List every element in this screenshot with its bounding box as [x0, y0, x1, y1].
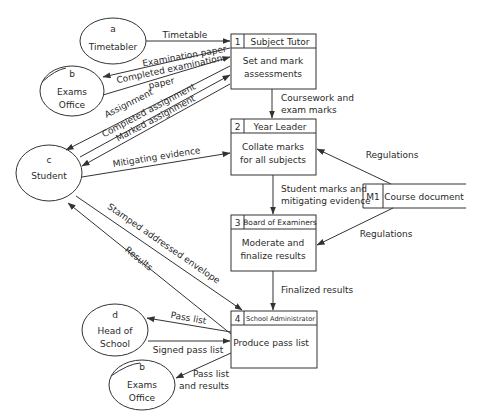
process-number: 3 [235, 218, 241, 228]
flow-stamped-addressed-envelope: Stamped addressed envelope [76, 196, 242, 310]
entity-label: Head of [97, 326, 133, 336]
flow-label: Pass list [170, 310, 208, 326]
process-description: finalize results [240, 251, 305, 261]
entity-letter: b [139, 362, 145, 372]
process-description: Collate marks [242, 142, 304, 152]
process-1-subject-tutor: 1 Subject Tutor Set and mark assessments [231, 34, 316, 89]
entity-student: c Student [16, 145, 82, 201]
flow-label: Regulations [366, 150, 419, 160]
entity-letter: c [47, 155, 52, 165]
process-actor: Subject Tutor [250, 37, 309, 47]
flow-label: Coursework and [281, 93, 354, 103]
entity-letter: d [112, 310, 118, 320]
process-number: 2 [235, 122, 241, 132]
process-description: assessments [244, 69, 302, 79]
process-number: 4 [235, 314, 241, 324]
data-flow-diagram: a Timetabler b Exams Office c Student d … [0, 0, 480, 418]
process-actor: School Administrator [246, 315, 315, 323]
entity-label: Timetabler [88, 42, 138, 52]
flow-timetable: Timetable [146, 30, 230, 41]
process-description: Produce pass list [233, 338, 309, 348]
flow-pass-list-and-results: Pass list and results [176, 353, 231, 391]
flow-label: Signed pass list [153, 345, 224, 355]
entity-exams-office-top: b Exams Office [40, 66, 104, 116]
flow-regulations-to-3: Regulations [317, 208, 413, 245]
flow-pass-list: Pass list [147, 310, 231, 332]
entity-label: Exams [127, 380, 157, 390]
flow-finalized-results: Finalized results [273, 271, 354, 310]
entity-head-of-school: d Head of School [82, 304, 148, 356]
process-number: 1 [235, 37, 241, 47]
entity-letter: b [69, 69, 75, 79]
flow-label: Pass list [193, 369, 229, 379]
entity-label: Office [59, 100, 86, 110]
flow-label: mitigating evidence [281, 196, 371, 206]
flow-regulations-to-2: Regulations [317, 149, 419, 184]
flow-label: Stamped addressed envelope [106, 201, 223, 286]
datastore-label: Course document [384, 192, 464, 202]
flow-label: Timetable [162, 30, 208, 40]
flow-label: Regulations [360, 229, 413, 239]
flow-label: Student marks and [281, 184, 367, 194]
datastore-m1-course-document: M1 Course document [363, 184, 466, 208]
flow-mitigating-evidence: Mitigating evidence [82, 145, 230, 177]
process-actor: Year Leader [253, 122, 307, 132]
entity-timetabler: a Timetabler [80, 18, 146, 64]
process-4-school-administrator: 4 School Administrator Produce pass list [231, 311, 317, 368]
flow-label: Finalized results [281, 285, 354, 295]
entity-exams-office-bottom: b Exams Office [109, 360, 175, 410]
process-2-year-leader: 2 Year Leader Collate marks for all subj… [231, 119, 316, 175]
flow-label: exam marks [281, 105, 337, 115]
flow-student-marks: Student marks and mitigating evidence [273, 175, 371, 214]
process-actor: Board of Examiners [243, 218, 317, 227]
entity-label: Office [129, 393, 156, 403]
flow-signed-pass-list: Signed pass list [148, 341, 230, 355]
process-description: for all subjects [240, 155, 306, 165]
entity-letter: a [110, 24, 116, 34]
flow-coursework-exam-marks: Coursework and exam marks [272, 89, 354, 118]
entity-label: Exams [57, 87, 87, 97]
process-description: Moderate and [242, 238, 305, 248]
flow-label: and results [179, 381, 229, 391]
flow-label: Results [123, 245, 155, 273]
process-description: Set and mark [243, 56, 304, 66]
entity-label: Student [31, 171, 67, 181]
process-3-board-of-examiners: 3 Board of Examiners Moderate and finali… [231, 215, 317, 271]
entity-label: School [100, 339, 130, 349]
